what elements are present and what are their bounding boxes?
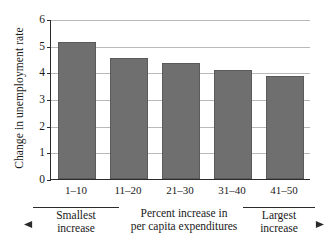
y-tick-label: 1: [39, 148, 45, 160]
annotation-largest: Largest increase: [243, 207, 315, 235]
y-tick-label: 5: [39, 41, 45, 53]
y-tick-label: 3: [39, 94, 45, 106]
y-tick-label: 2: [39, 121, 45, 133]
arrow-left-icon: [24, 220, 33, 229]
bar: [266, 76, 304, 179]
annotation-right-rule: [243, 207, 315, 208]
x-tick-label: 11–20: [114, 184, 141, 196]
y-tick-mark: [47, 180, 51, 181]
bar: [58, 42, 96, 179]
y-tick-label: 4: [39, 68, 45, 80]
annotation-mid-line1: Percent increase in: [118, 207, 250, 220]
annotation-mid-line2: per capita expenditures: [118, 220, 250, 233]
annotation-left-rule: [33, 207, 119, 208]
bar: [214, 70, 252, 179]
x-tick-label: 41–50: [270, 184, 298, 196]
y-tick-label: 6: [39, 14, 45, 26]
x-tick-label: 21–30: [166, 184, 194, 196]
annotation-left-line2: increase: [33, 222, 119, 235]
bar-chart-figure: Change in unemployment rate 0123456 1–10…: [0, 0, 332, 247]
annotation-right-line2: increase: [243, 222, 315, 235]
annotation-left-line1: Smallest: [33, 209, 119, 222]
y-tick-label: 0: [39, 174, 45, 186]
x-tick-label: 31–40: [218, 184, 246, 196]
arrow-right-icon: [315, 220, 324, 229]
bar: [110, 58, 148, 179]
x-tick-label: 1–10: [65, 184, 87, 196]
annotation-smallest: Smallest increase: [33, 207, 119, 235]
annotation-right-line1: Largest: [243, 209, 315, 222]
x-axis-title: Percent increase in per capita expenditu…: [118, 207, 250, 233]
y-axis-title: Change in unemployment rate: [13, 13, 25, 183]
plot-area: 0123456: [50, 20, 310, 180]
bar-series: [51, 20, 310, 179]
bar: [162, 63, 200, 179]
